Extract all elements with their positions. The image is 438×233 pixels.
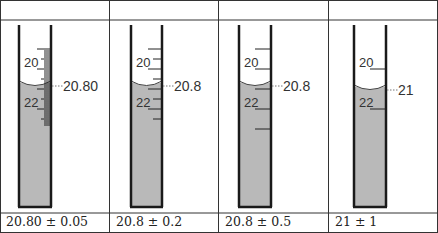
- reading-label: 20.8: [174, 78, 201, 94]
- diagram-canvas: 202220.80202220.8202220.8202221: [0, 0, 438, 233]
- reading-label: 20.8: [283, 78, 310, 94]
- reading-label: 20.80: [63, 78, 98, 94]
- caption-cylinder-4: 21 ± 1: [335, 214, 377, 229]
- measurement-precision-diagram: 202220.80202220.8202220.8202221 20.80 ± …: [0, 0, 438, 233]
- reading-label: 21: [398, 82, 414, 98]
- caption-cylinder-2: 20.8 ± 0.2: [116, 214, 182, 229]
- scale-label: 20: [359, 55, 373, 70]
- scale-label: 20: [136, 55, 150, 70]
- caption-cylinder-1: 20.80 ± 0.05: [6, 214, 88, 229]
- scale-label: 22: [24, 95, 38, 110]
- scale-label: 20: [244, 55, 258, 70]
- scale-label: 22: [359, 95, 373, 110]
- scale-label: 20: [24, 55, 38, 70]
- caption-cylinder-3: 20.8 ± 0.5: [225, 214, 291, 229]
- scale-label: 22: [136, 95, 150, 110]
- scale-label: 22: [244, 95, 258, 110]
